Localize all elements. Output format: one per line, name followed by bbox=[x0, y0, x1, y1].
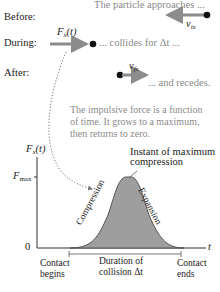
duration-label: Duration of collision Δt bbox=[99, 256, 143, 278]
contact-begins-label: Contact begins bbox=[40, 258, 70, 280]
explanation-text: The impulsive force is a function of tim… bbox=[70, 104, 202, 140]
after-label: After: bbox=[4, 67, 29, 78]
after-caption: ... and recedes. bbox=[148, 77, 210, 88]
zero-label: 0 bbox=[25, 241, 30, 252]
during-force-arrow bbox=[50, 41, 96, 48]
y-axis-label: Fx(t) bbox=[26, 143, 45, 156]
v-ix-symbol: vix bbox=[186, 18, 196, 31]
before-label: Before: bbox=[4, 11, 36, 22]
fx-t-symbol: Fx(t) bbox=[57, 26, 76, 39]
peak-annotation: Instant of maximum compression bbox=[130, 146, 215, 167]
before-caption: The particle approaches ... bbox=[94, 0, 205, 10]
v-fx-symbol: vfx bbox=[129, 60, 139, 73]
fmax-label: Fmax bbox=[13, 170, 31, 183]
during-label: During: bbox=[4, 37, 37, 48]
during-caption: ... collides for Δt ... bbox=[99, 37, 180, 48]
t-axis-label: t bbox=[208, 241, 211, 252]
contact-ends-label: Contact ends bbox=[177, 258, 207, 280]
